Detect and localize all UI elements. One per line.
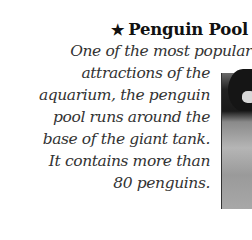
body-line: It contains more than	[49, 152, 210, 170]
body-line: pool runs around the	[53, 108, 210, 126]
body-line: base of the giant tank.	[43, 130, 210, 148]
body-line: One of the most popular	[70, 42, 252, 60]
penguin-photo	[221, 73, 252, 209]
penguin-neck-shape	[242, 91, 252, 103]
body-line: attractions of the	[81, 64, 210, 82]
body-line: 80 penguins.	[113, 174, 210, 192]
body-line: aquarium, the penguin	[39, 86, 210, 104]
penguin-head-shape	[228, 69, 252, 111]
star-icon: ★	[111, 21, 124, 39]
section-title: Penguin Pool	[128, 20, 248, 39]
section-heading: ★Penguin Pool	[0, 20, 248, 39]
